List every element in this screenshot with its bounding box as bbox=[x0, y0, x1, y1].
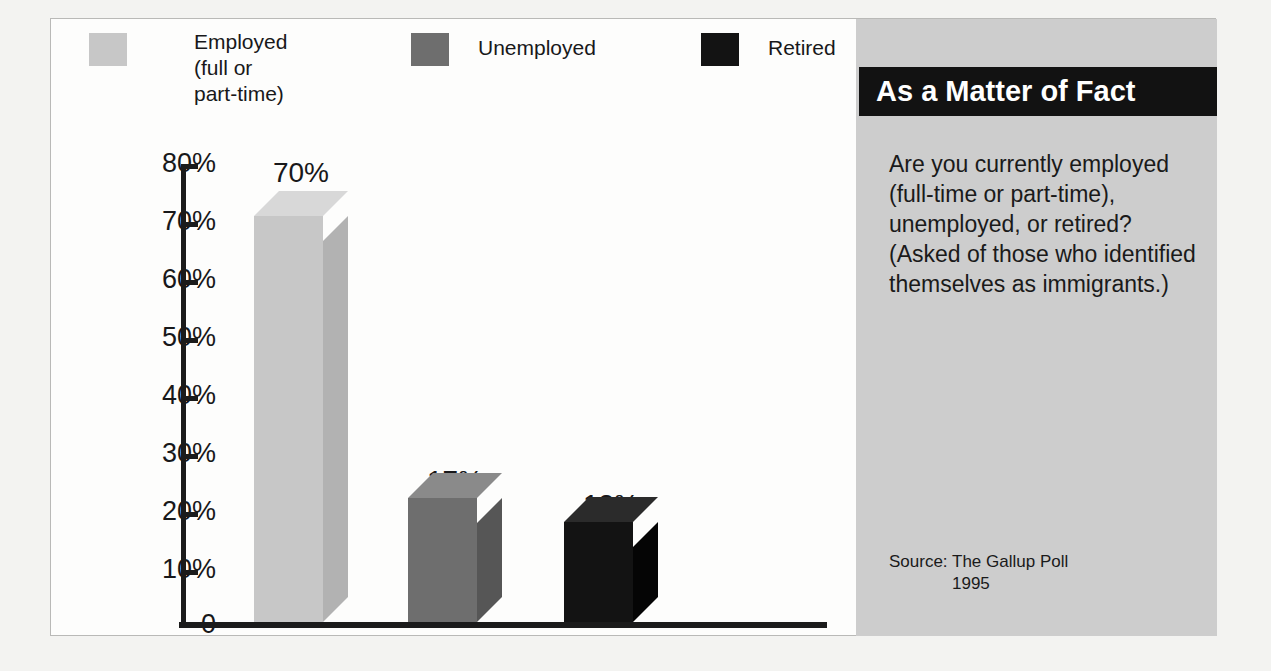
bar-front-unemployed bbox=[408, 498, 477, 622]
y-axis-label-50: 50% bbox=[106, 324, 216, 351]
bar-front-employed bbox=[254, 216, 323, 622]
y-axis-tick-10 bbox=[181, 570, 198, 575]
bar-side-retired bbox=[633, 522, 658, 622]
sidebar-title: As a Matter of Fact bbox=[876, 75, 1135, 108]
y-axis-tick-30 bbox=[181, 454, 198, 459]
bar-value-label-employed: 70% bbox=[221, 159, 381, 187]
y-axis-label-30: 30% bbox=[106, 440, 216, 467]
bar-employed: 70% bbox=[254, 114, 348, 622]
y-axis-label-40: 40% bbox=[106, 382, 216, 409]
bar-top-shape-icon bbox=[564, 497, 658, 522]
figure-container: Employed (full or part-time) Unemployed … bbox=[0, 0, 1271, 671]
legend-swatch-unemployed-icon bbox=[411, 33, 449, 66]
bar-top-shape-icon bbox=[408, 473, 502, 498]
y-axis-tick-70 bbox=[181, 222, 198, 227]
plot-area: 80% 70% 60% 50% 40% 30% 20% 10% 0 70% bbox=[51, 114, 861, 636]
legend-label-employed: Employed (full or part-time) bbox=[194, 29, 287, 107]
bar-top-shape-icon bbox=[254, 191, 348, 216]
bar-retired: 13% bbox=[564, 114, 658, 622]
bar-top-retired bbox=[564, 497, 633, 522]
sidebar-panel: As a Matter of Fact Are you currently em… bbox=[856, 19, 1217, 636]
bar-side-employed bbox=[323, 216, 348, 622]
y-axis-tick-60 bbox=[181, 280, 198, 285]
y-axis-label-70: 70% bbox=[106, 208, 216, 235]
chart-frame: Employed (full or part-time) Unemployed … bbox=[50, 18, 1216, 636]
legend-label-retired: Retired bbox=[768, 35, 836, 61]
y-axis-tick-80 bbox=[181, 164, 198, 169]
sidebar-source-year: 1995 bbox=[889, 573, 1209, 595]
y-axis-label-20: 20% bbox=[106, 498, 216, 525]
y-axis-label-80: 80% bbox=[106, 150, 216, 177]
bar-side-unemployed bbox=[477, 498, 502, 622]
legend-swatch-employed-icon bbox=[89, 33, 127, 66]
bar-top-employed bbox=[254, 191, 323, 216]
x-axis-baseline bbox=[179, 622, 827, 628]
sidebar-source: Source: The Gallup Poll 1995 bbox=[889, 551, 1209, 595]
y-axis-label-10: 10% bbox=[106, 556, 216, 583]
sidebar-header-bar: As a Matter of Fact bbox=[859, 67, 1217, 116]
chart-legend: Employed (full or part-time) Unemployed … bbox=[51, 19, 861, 114]
y-axis-tick-40 bbox=[181, 396, 198, 401]
legend-swatch-retired-icon bbox=[701, 33, 739, 66]
y-axis-label-60: 60% bbox=[106, 266, 216, 293]
sidebar-question-text: Are you currently employed (full-time or… bbox=[889, 149, 1204, 299]
sidebar-source-label: Source: The Gallup Poll bbox=[889, 552, 1068, 571]
y-axis-tick-20 bbox=[181, 512, 198, 517]
bar-side-shape-icon bbox=[633, 522, 658, 622]
bar-unemployed: 17% bbox=[408, 114, 502, 622]
bar-side-shape-icon bbox=[323, 216, 348, 622]
y-axis-tick-50 bbox=[181, 338, 198, 343]
bar-top-unemployed bbox=[408, 473, 477, 498]
legend-label-unemployed: Unemployed bbox=[478, 35, 596, 61]
bar-side-shape-icon bbox=[477, 498, 502, 622]
bar-front-retired bbox=[564, 522, 633, 622]
